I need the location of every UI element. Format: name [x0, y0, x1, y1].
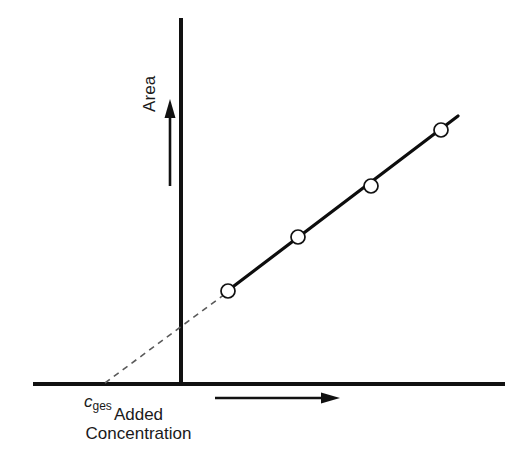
- regression-fit-line: [226, 116, 458, 292]
- data-point-marker: [291, 230, 305, 244]
- x-axis-label-line-1: Added: [0, 405, 529, 424]
- data-point-marker: [364, 179, 378, 193]
- x-intercept-subscript: ges: [93, 399, 112, 413]
- y-axis-direction-arrow-head: [165, 99, 176, 118]
- x-intercept-label: cges: [84, 392, 112, 413]
- extrapolation-dashed-line: [105, 291, 229, 383]
- data-point-marker: [221, 284, 235, 298]
- plot-canvas: [0, 0, 529, 468]
- x-axis-label-line-2: Concentration: [0, 424, 529, 443]
- x-axis-direction-arrow-head: [321, 393, 340, 404]
- x-intercept-symbol: c: [84, 392, 93, 411]
- data-point-marker: [434, 123, 448, 137]
- x-axis-label: Added Concentration: [0, 405, 529, 443]
- y-axis-label: Area: [140, 76, 159, 112]
- standard-addition-plot: Area Added Concentration cges: [0, 0, 529, 468]
